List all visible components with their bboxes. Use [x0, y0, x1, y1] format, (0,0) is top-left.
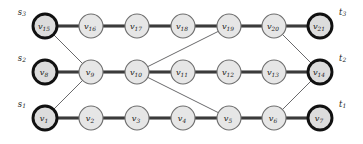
node-v4[interactable]: v4	[171, 106, 195, 130]
node-v17[interactable]: v17	[125, 14, 149, 38]
cross-edge-v9-v1	[53, 80, 82, 109]
terminal-label-t1: t1	[339, 99, 346, 109]
cross-edge-v15-v9	[53, 34, 82, 63]
terminal-label-t2: t2	[339, 53, 346, 63]
node-v9[interactable]: v9	[79, 60, 103, 84]
terminal-label-s3: s3	[18, 7, 26, 17]
node-v15[interactable]: v15	[33, 14, 57, 38]
node-v1[interactable]: v1	[33, 106, 57, 130]
graph-canvas: v1v2v3v4v5v6v7v8v9v10v11v12v13v14v15v16v…	[0, 0, 363, 144]
cross-edge-v20-v14	[282, 34, 311, 63]
node-v3[interactable]: v3	[125, 106, 149, 130]
node-v18[interactable]: v18	[171, 14, 195, 38]
graph-diagram: v1v2v3v4v5v6v7v8v9v10v11v12v13v14v15v16v…	[0, 0, 363, 144]
node-v10[interactable]: v10	[125, 60, 149, 84]
node-v20[interactable]: v20	[262, 14, 286, 38]
cross-edge-v6-v14	[282, 80, 311, 109]
node-v16[interactable]: v16	[79, 14, 103, 38]
node-v21[interactable]: v21	[308, 14, 332, 38]
node-v11[interactable]: v11	[171, 60, 195, 84]
node-v2[interactable]: v2	[79, 106, 103, 130]
node-v8[interactable]: v8	[33, 60, 57, 84]
terminal-label-t3: t3	[339, 7, 346, 17]
node-v6[interactable]: v6	[262, 106, 286, 130]
terminal-label-s1: s1	[18, 99, 26, 109]
node-v5[interactable]: v5	[217, 106, 241, 130]
node-v13[interactable]: v13	[262, 60, 286, 84]
node-v14[interactable]: v14	[308, 60, 332, 84]
node-v12[interactable]: v12	[217, 60, 241, 84]
node-v19[interactable]: v19	[217, 14, 241, 38]
node-v7[interactable]: v7	[308, 106, 332, 130]
terminal-label-s2: s2	[18, 53, 26, 63]
